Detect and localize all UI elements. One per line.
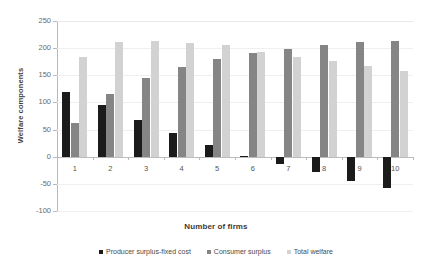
x-axis-tick <box>199 157 200 160</box>
y-axis-tick-label: 250 <box>38 17 51 25</box>
legend-label: Consumer surplus <box>214 248 271 255</box>
bar <box>106 94 114 156</box>
bar <box>284 49 292 157</box>
y-axis-tick-label: 150 <box>38 72 51 80</box>
bar <box>257 52 265 157</box>
x-axis-tick <box>377 157 378 160</box>
bar <box>169 133 177 156</box>
x-axis-tick-label: 9 <box>348 165 372 173</box>
bar <box>364 66 372 157</box>
x-axis-tick <box>413 157 414 160</box>
bar <box>249 53 257 157</box>
legend-swatch-icon <box>287 250 291 254</box>
x-axis-title-text: Number of firms <box>184 222 247 231</box>
bar <box>240 156 248 157</box>
y-axis-tick <box>53 48 57 49</box>
x-axis-title: Number of firms <box>0 222 432 231</box>
legend-swatch-icon <box>207 250 211 254</box>
bar <box>62 92 70 157</box>
legend-entry[interactable]: Total welfare <box>287 248 333 255</box>
x-axis-tick-label: 5 <box>205 165 229 173</box>
y-axis-line <box>57 21 58 211</box>
y-axis-title-text: Welfare components <box>17 67 26 142</box>
bar <box>115 42 123 157</box>
legend-swatch-icon <box>99 250 103 254</box>
x-axis-tick <box>164 157 165 160</box>
gridline <box>57 211 413 212</box>
x-axis-tick <box>235 157 236 160</box>
x-axis-tick-label: 7 <box>276 165 300 173</box>
bar <box>98 105 106 157</box>
y-axis-title: Welfare components <box>14 0 28 210</box>
legend-label: Producer surplus-fixed cost <box>106 248 191 255</box>
bar <box>400 71 408 156</box>
bar <box>151 41 159 157</box>
bar <box>391 41 399 157</box>
x-axis-tick-label: 3 <box>134 165 158 173</box>
welfare-components-bar-chart: Welfare components 250200150100500-50-10… <box>0 0 432 270</box>
x-axis-tick-label: 10 <box>383 165 407 173</box>
bar <box>222 45 230 156</box>
legend-entry[interactable]: Consumer surplus <box>207 248 271 255</box>
gridline <box>57 184 413 185</box>
x-axis-tick <box>342 157 343 160</box>
bar <box>134 120 142 156</box>
bar <box>320 45 328 156</box>
y-axis-tick <box>53 102 57 103</box>
x-axis-tick-label: 2 <box>98 165 122 173</box>
bar <box>79 57 87 157</box>
x-axis-tick-label: 4 <box>170 165 194 173</box>
x-axis-tick <box>271 157 272 160</box>
x-axis-tick-label: 6 <box>241 165 265 173</box>
bar <box>205 145 213 157</box>
x-axis-tick-label: 1 <box>63 165 87 173</box>
chart-legend: Producer surplus-fixed costConsumer surp… <box>0 248 432 255</box>
bar <box>293 57 301 157</box>
bar <box>329 61 337 157</box>
gridline <box>57 21 413 22</box>
y-axis-tick <box>53 211 57 212</box>
x-axis-tick-label: 8 <box>312 165 336 173</box>
y-axis-tick <box>53 75 57 76</box>
y-axis-tick <box>53 21 57 22</box>
bar <box>276 157 284 164</box>
x-axis-tick <box>93 157 94 160</box>
bar <box>383 157 391 188</box>
legend-label: Total welfare <box>294 248 333 255</box>
y-axis-tick-label: 200 <box>38 44 51 52</box>
x-axis-tick <box>128 157 129 160</box>
y-axis-tick <box>53 130 57 131</box>
y-axis-tick-label: -50 <box>40 180 51 188</box>
x-axis-tick <box>57 157 58 160</box>
bar <box>213 59 221 157</box>
legend-entry[interactable]: Producer surplus-fixed cost <box>99 248 191 255</box>
bar <box>356 42 364 157</box>
bar <box>142 78 150 157</box>
y-axis-tick-label: -100 <box>36 207 51 215</box>
y-axis-tick-label: 50 <box>43 126 51 134</box>
y-axis-tick-label: 100 <box>38 99 51 107</box>
bar <box>178 67 186 157</box>
plot-area: 250200150100500-50-100 <box>57 21 413 211</box>
bar <box>186 43 194 157</box>
x-axis-tick <box>306 157 307 160</box>
y-axis-tick-label: 0 <box>47 153 51 161</box>
y-axis-tick <box>53 184 57 185</box>
bar <box>71 123 79 157</box>
